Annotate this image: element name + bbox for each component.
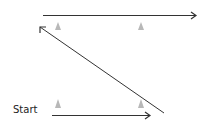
cone-top-left	[55, 22, 61, 30]
arrow-top	[43, 12, 196, 19]
arrow-diagonal	[40, 27, 164, 113]
start-label: Start	[13, 104, 37, 115]
cone-top-right	[138, 22, 144, 30]
arrow-bottom	[52, 112, 150, 119]
cone-bottom-left	[55, 99, 61, 108]
cone-bottom-right	[138, 99, 144, 108]
